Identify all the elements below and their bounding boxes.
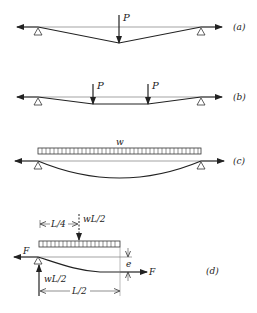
support-icon — [197, 98, 205, 105]
figure-d: L/4 wL/2 F F wL/2 e L/2 (d) — [14, 214, 219, 296]
dim-label-l4: L/4 — [50, 219, 66, 229]
support-icon — [197, 28, 205, 35]
figure-label: (a) — [233, 22, 246, 32]
distributed-load — [38, 148, 201, 154]
load-label: P — [122, 12, 130, 23]
beam-diagrams: P (a) P P (b) w (c) — [0, 0, 257, 313]
figure-b: P P (b) — [17, 80, 246, 105]
figure-c: w (c) — [15, 137, 246, 178]
support-icon — [34, 162, 42, 169]
resultant-label: wL/2 — [83, 214, 106, 224]
support-icon — [34, 98, 42, 105]
support-icon — [197, 162, 205, 169]
dim-label-l2: L/2 — [71, 286, 87, 296]
reaction-label: wL/2 — [44, 274, 67, 284]
force-label-right: F — [148, 267, 156, 277]
figure-label: (b) — [233, 92, 246, 102]
deflected-cable — [38, 257, 120, 272]
load-label: P — [151, 80, 159, 91]
load-label: P — [96, 80, 104, 91]
sag-label: e — [126, 259, 131, 269]
deflected-cable — [38, 97, 201, 104]
figure-label: (d) — [206, 266, 219, 276]
force-label-left: F — [22, 246, 30, 256]
distributed-load — [39, 241, 120, 247]
load-label: w — [116, 137, 124, 147]
figure-label: (c) — [233, 156, 246, 166]
figure-a: P (a) — [17, 12, 246, 43]
deflected-cable — [38, 161, 201, 178]
support-icon — [34, 28, 42, 35]
